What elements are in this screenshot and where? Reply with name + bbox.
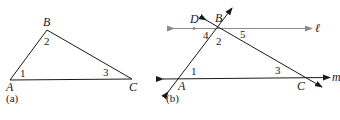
figure-b-parallel-lines: D B ℓ m A C 4 2 5 1 3 (b) xyxy=(163,8,340,105)
angle-3-label: 3 xyxy=(103,66,109,78)
caption-a: (a) xyxy=(6,92,19,105)
angle-1-label: 1 xyxy=(20,67,26,79)
vertex-b-label: B xyxy=(43,15,51,29)
figure-a-triangle: B A C 2 1 3 (a) xyxy=(5,15,138,105)
triangle-abc xyxy=(10,30,132,80)
line-m-label: m xyxy=(332,70,340,84)
line-bc xyxy=(206,20,322,87)
diagram-canvas: B A C 2 1 3 (a) D B ℓ m A C 4 2 5 1 3 (b… xyxy=(0,0,340,120)
point-b-label: B xyxy=(215,11,223,25)
point-c-label: C xyxy=(297,79,306,93)
angle-2-label-b: 2 xyxy=(216,35,222,47)
line-l-label: ℓ xyxy=(315,21,320,35)
vertex-c-label: C xyxy=(129,80,138,94)
caption-b: (b) xyxy=(166,92,179,105)
point-d-label: D xyxy=(189,12,199,26)
angle-4-label: 4 xyxy=(203,29,209,41)
angle-1-label-b: 1 xyxy=(191,65,197,77)
angle-3-label-b: 3 xyxy=(275,64,281,76)
angle-5-label: 5 xyxy=(240,28,246,40)
angle-2-label: 2 xyxy=(44,35,50,47)
point-a-label: A xyxy=(177,79,186,93)
point-d-dot xyxy=(193,27,196,30)
